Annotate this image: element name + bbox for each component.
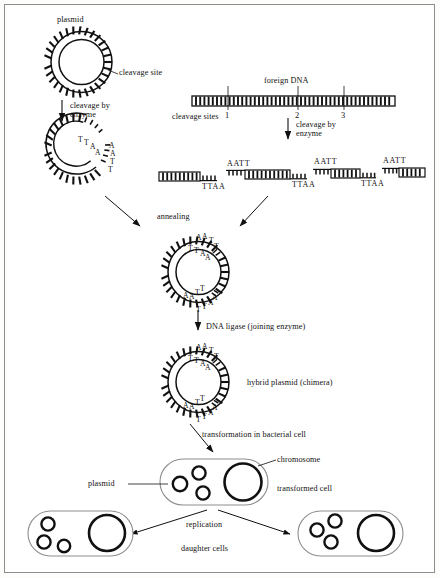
fragment-2-bottom-seq: TTAA [292, 180, 316, 189]
chimera-base-l5: T [196, 415, 201, 424]
daughter-cell-right [298, 511, 403, 556]
fragment-1-bottom-seq: TTAA [202, 182, 226, 191]
fragment-2-top-seq: AATT [227, 159, 250, 168]
label-daughter-cells: daughter cells [181, 544, 228, 553]
annealed-base-u2: A [202, 232, 207, 241]
chimera-base-u8: A [205, 363, 210, 372]
plasmid-base-t2: T [84, 138, 89, 147]
label-cleavage-enzyme-left-1: cleavage by [70, 101, 110, 110]
foreign-dna-duplex [192, 86, 395, 110]
label-chromosome: chromosome [277, 455, 320, 464]
chimera-base-l6: T [202, 412, 207, 421]
site-number-1: 1 [225, 111, 229, 120]
chimera-base-l8: A [212, 403, 217, 412]
annealed-base-u5: T [188, 244, 193, 253]
dna-fragment-1 [159, 172, 217, 181]
annealed-base-u4: T [214, 242, 219, 251]
label-cleavage-enzyme-right-2: enzyme [296, 129, 322, 138]
label-replication: replication [186, 520, 222, 529]
chimera-base-u6: T [194, 356, 199, 365]
annealed-base-u8: A [205, 253, 210, 262]
figure-canvas: plasmid cleavage site cleavage by enzyme… [0, 0, 440, 578]
plasmid-base-t1: T [78, 135, 83, 144]
chimera-base-l3: T [195, 398, 200, 407]
dna-fragment-2 [226, 170, 307, 179]
chimera-base-l4: T [200, 394, 205, 403]
label-dna-ligase: DNA ligase (joining enzyme) [206, 322, 305, 331]
plasmid-base-a2: A [95, 148, 100, 157]
fragment-3-bottom-seq: TTAA [361, 179, 385, 188]
annealed-base-l6: T [202, 302, 207, 311]
annealed-base-u1: A [196, 233, 201, 242]
label-plasmid-top: plasmid [57, 15, 84, 24]
label-annealing: annealing [157, 212, 190, 221]
fragment-4-top-seq: AATT [383, 156, 406, 165]
site-number-3: 3 [341, 111, 345, 120]
chromosome-leader [258, 460, 276, 466]
chimera-base-l1: A [183, 401, 188, 410]
label-cleavage-enzyme-left-2: enzyme [70, 110, 96, 119]
annealed-base-l5: T [196, 305, 201, 314]
fragment-3-top-seq: AATT [314, 157, 337, 166]
dna-fragment-3 [313, 169, 376, 178]
label-cleavage-sites: cleavage sites [172, 112, 219, 121]
annealed-base-l2: A [189, 292, 194, 301]
arrow-plasmid-to-annealing [105, 196, 140, 226]
arrow-replication-right [218, 510, 290, 534]
chimera-base-u3: T [209, 346, 214, 355]
label-cleavage-enzyme-right-1: cleavage by [296, 120, 336, 129]
plasmid-top-circle [44, 26, 112, 97]
plasmid-base-t4: T [108, 165, 113, 174]
chimera-base-u1: A [196, 343, 201, 352]
chimera-base-u2: A [202, 342, 207, 351]
chimera-base-l2: A [189, 402, 194, 411]
chimera-base-u5: T [188, 354, 193, 363]
diagram-vector-layer [0, 0, 440, 578]
label-transformation: transformation in bacterial cell [202, 430, 306, 439]
annealed-base-l3: T [195, 288, 200, 297]
annealed-base-u3: T [209, 236, 214, 245]
label-hybrid-plasmid: hybrid plasmid (chimera) [247, 378, 333, 387]
arrow-fragments-to-annealing [240, 196, 268, 226]
label-plasmid-cell: plasmid [88, 479, 115, 488]
label-foreign-dna: foreign DNA [264, 76, 309, 85]
dna-fragment-4 [382, 168, 425, 177]
transformed-cell [128, 459, 276, 505]
daughter-cell-left [28, 511, 133, 556]
annealed-base-l1: A [183, 291, 188, 300]
annealed-base-l8: A [212, 293, 217, 302]
label-transformed-cell: transformed cell [277, 484, 332, 493]
site-number-2: 2 [295, 111, 299, 120]
chimera-base-u4: T [214, 352, 219, 361]
annealed-base-u6: T [194, 246, 199, 255]
annealed-base-l4: T [200, 284, 205, 293]
label-cleavage-site: cleavage site [119, 68, 162, 77]
